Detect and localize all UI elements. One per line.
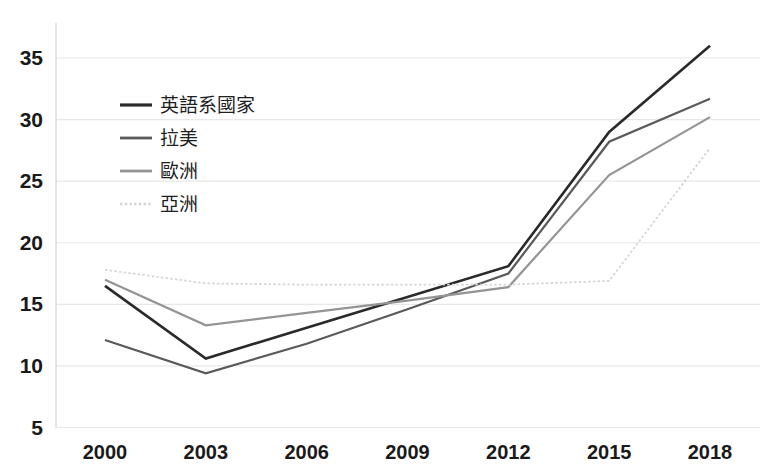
y-tick-label: 25: [20, 169, 44, 192]
line-chart: 5101520253035 20002003200620092012201520…: [0, 0, 771, 472]
y-axis-tick-labels: 5101520253035: [20, 46, 44, 439]
y-tick-label: 30: [20, 108, 43, 131]
chart-canvas: 5101520253035 20002003200620092012201520…: [0, 0, 771, 472]
chart-legend: 英語系國家拉美歐洲亞洲: [120, 94, 255, 215]
y-tick-label: 15: [20, 292, 44, 315]
y-tick-label: 35: [20, 46, 44, 69]
y-tick-label: 10: [20, 354, 43, 377]
x-tick-label: 2012: [486, 441, 531, 463]
legend-label-1: 拉美: [160, 127, 198, 149]
x-axis-tick-labels: 2000200320062009201220152018: [83, 441, 733, 463]
x-tick-label: 2018: [688, 441, 733, 463]
legend-label-2: 歐洲: [160, 160, 198, 182]
x-tick-label: 2006: [284, 441, 329, 463]
x-tick-label: 2000: [83, 441, 128, 463]
legend-label-0: 英語系國家: [160, 94, 255, 116]
y-tick-label: 5: [31, 416, 43, 439]
legend-label-3: 亞洲: [160, 193, 198, 215]
x-tick-label: 2003: [184, 441, 229, 463]
x-tick-label: 2015: [587, 441, 632, 463]
x-tick-label: 2009: [385, 441, 430, 463]
y-tick-label: 20: [20, 231, 43, 254]
